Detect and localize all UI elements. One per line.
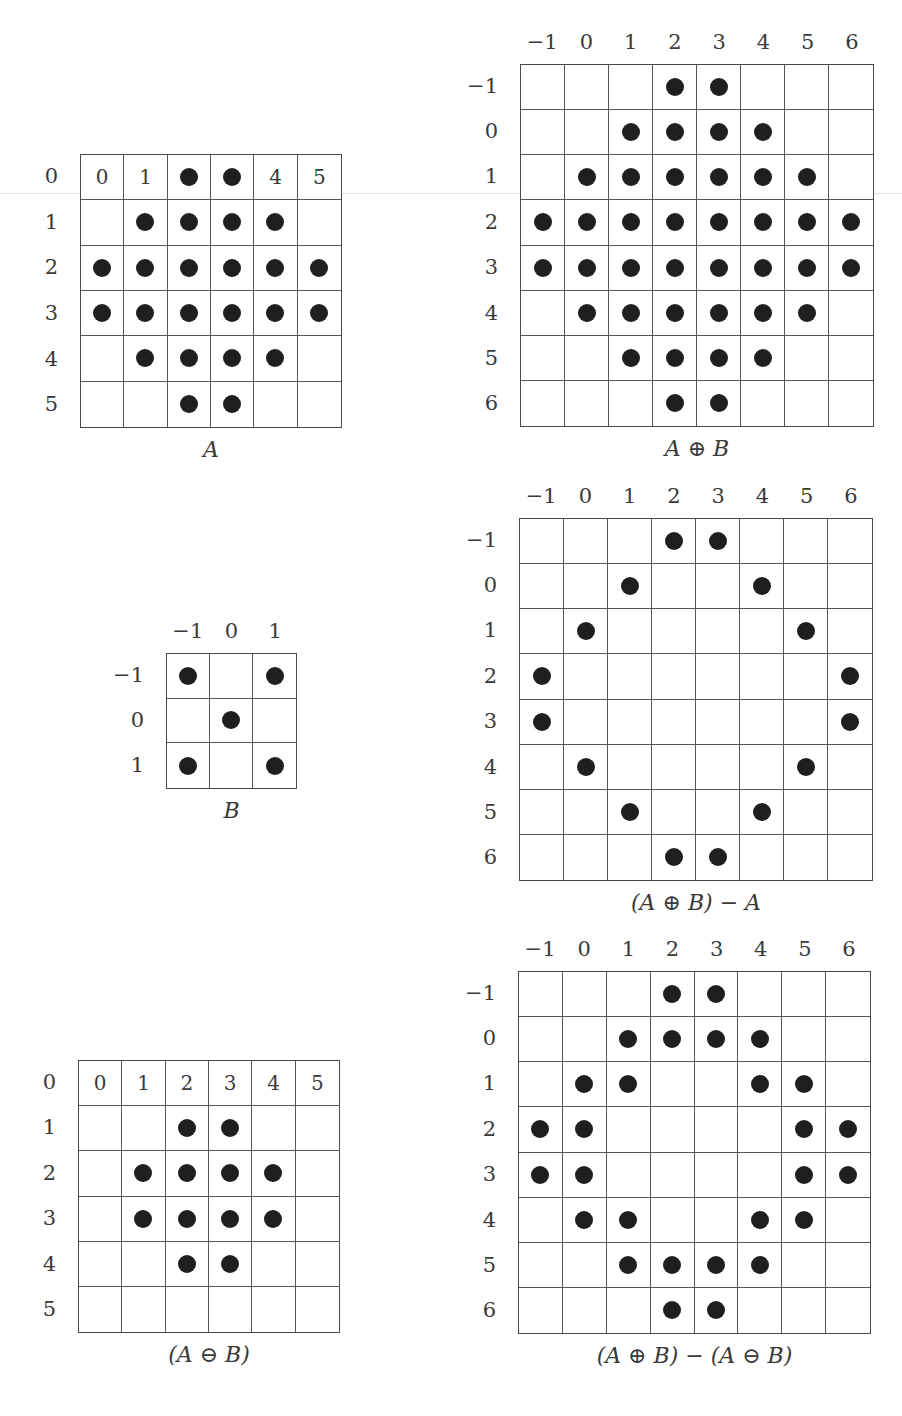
grid-cell [81,200,124,245]
filled-dot-icon [707,1301,725,1319]
grid-cell [653,336,697,381]
cell-text: 2 [180,1071,193,1095]
column-label: 1 [609,32,653,53]
grid-cell [166,1287,209,1332]
grid-cell [651,1107,695,1152]
grid-cell [740,700,784,745]
grid-cell [738,1153,782,1198]
filled-dot-icon [223,395,241,413]
row-label: 2 [456,1119,496,1140]
grid-cell: 5 [296,1061,339,1106]
filled-dot-icon [223,259,241,277]
grid-cell [209,1151,252,1196]
grid-cell [696,654,740,699]
grid-cell [79,1151,122,1196]
filled-dot-icon [798,259,816,277]
row-label: 1 [16,1117,56,1138]
filled-dot-icon [839,1120,857,1138]
filled-dot-icon [266,259,284,277]
cell-text: 5 [311,1071,324,1095]
grid-cell [298,246,341,291]
grid-cell [563,972,607,1017]
grid-cell [254,291,297,336]
filled-dot-icon [221,1255,239,1273]
row-label: 2 [16,1163,56,1184]
grid-cell [696,519,740,564]
filled-dot-icon [663,985,681,1003]
column-label: 4 [741,32,785,53]
filled-dot-icon [534,259,552,277]
grid-cell [168,155,211,200]
grid-cell [81,336,124,381]
row-label: 4 [456,1210,496,1231]
grid-cell [652,564,696,609]
grid-cell [696,700,740,745]
grid-cell [563,1107,607,1152]
row-label: 4 [16,1254,56,1275]
grid-cell [79,1197,122,1242]
grid-cell [296,1242,339,1287]
grid-cell [738,1107,782,1152]
grid-cell [565,381,609,426]
filled-dot-icon [180,259,198,277]
grid-cell [520,519,564,564]
grid-cell [784,745,828,790]
row-label: 3 [18,303,58,324]
grid-cell [563,1153,607,1198]
grid-cell [826,1062,870,1107]
row-label: 0 [104,710,144,731]
grid-cell [695,1198,739,1243]
cell-text: 3 [224,1071,237,1095]
filled-dot-icon [575,1075,593,1093]
filled-dot-icon [621,803,639,821]
cell-text: 5 [313,165,326,189]
filled-dot-icon [223,168,241,186]
grid-cell [168,336,211,381]
filled-dot-icon [310,259,328,277]
filled-dot-icon [531,1166,549,1184]
filled-dot-icon [178,1255,196,1273]
grid-cell [210,654,253,699]
filled-dot-icon [575,1120,593,1138]
filled-dot-icon [707,985,725,1003]
filled-dot-icon [533,667,551,685]
filled-dot-icon [223,349,241,367]
grid-cell [519,1107,563,1152]
grid-cell [563,1017,607,1062]
grid-cell [785,336,829,381]
filled-dot-icon [266,213,284,231]
cell-text: 0 [94,1071,107,1095]
grid-cell [782,1017,826,1062]
grid-cell [607,972,651,1017]
filled-dot-icon [710,78,728,96]
column-label: 4 [740,486,784,507]
filled-dot-icon [264,1210,282,1228]
filled-dot-icon [134,1164,152,1182]
row-label: 5 [458,348,498,369]
grid-cell [211,382,254,427]
filled-dot-icon [622,349,640,367]
grid-cell [565,155,609,200]
grid-cell [252,1287,295,1332]
filled-dot-icon [622,259,640,277]
grid-cell [740,519,784,564]
grid-cell [828,519,872,564]
grid-cell [608,564,652,609]
grid-cell [651,1062,695,1107]
grid-cell [609,110,653,155]
grid-cell [520,564,564,609]
grid-cell [697,336,741,381]
grid-cell [607,1153,651,1198]
filled-dot-icon [577,758,595,776]
grid-cell [124,382,167,427]
column-label: −1 [166,621,210,642]
filled-dot-icon [707,1030,725,1048]
grid-cell [826,1107,870,1152]
grid-cell [782,1153,826,1198]
grid-cell [254,336,297,381]
grid-cell [607,1107,651,1152]
grid-cell [168,291,211,336]
grid-cell [609,200,653,245]
grid-cell [607,1062,651,1107]
filled-dot-icon [795,1211,813,1229]
